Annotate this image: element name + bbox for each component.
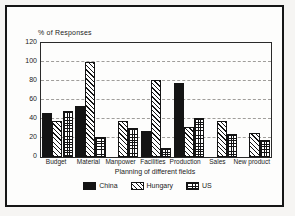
y-axis-title: % of Responses [38,29,92,36]
bar-china-budget [42,113,52,157]
y-tick-label-100: 100 [15,57,37,65]
x-tick-label-sales: Sales [201,158,233,166]
bar-hungary-sales [217,121,227,157]
bar-china-material [75,106,85,157]
legend-item-hungary: Hungary [131,181,173,190]
y-tick-label-20: 20 [15,133,37,141]
legend-item-us: US [186,181,212,190]
legend-item-china: China [83,181,117,190]
x-tick-label-new-product: New product [234,158,271,166]
gridline-100 [41,61,271,62]
x-axis-title: Planning of different fields [40,168,270,175]
x-tick-label-manpower: Manpower [105,158,137,166]
legend-label-hungary: Hungary [147,181,173,190]
x-tick-label-facilities: Facilities [137,158,169,166]
bar-china-facilities [141,131,151,157]
bar-china-production [174,83,184,157]
x-tick-label-material: Material [72,158,104,166]
legend-swatch-hungary [131,182,144,190]
bar-hungary-facilities [151,80,161,157]
plot-area [40,42,272,158]
y-tick-label-120: 120 [15,38,37,46]
y-tick-label-80: 80 [15,76,37,84]
x-axis-category-labels: BudgetMaterialManpowerFacilitiesProducti… [40,158,270,166]
bar-us-budget [63,111,73,157]
legend-swatch-us [186,182,199,190]
bar-hungary-production [184,127,194,157]
bar-hungary-budget [52,121,62,157]
scanned-chart-page: % of Responses 020406080100120 BudgetMat… [0,0,295,216]
bar-us-facilities [161,148,171,158]
bar-chart: % of Responses 020406080100120 BudgetMat… [0,0,295,216]
bar-us-new-product [260,140,270,157]
y-tick-label-40: 40 [15,114,37,122]
bar-hungary-manpower [118,121,128,157]
bar-us-material [95,137,105,157]
y-tick-label-0: 0 [15,152,37,160]
legend: ChinaHungaryUS [0,181,295,190]
x-tick-label-production: Production [169,158,201,166]
legend-label-china: China [99,181,117,190]
bar-hungary-new-product [249,133,259,157]
bar-us-manpower [128,128,138,157]
bar-us-sales [227,134,237,157]
legend-label-us: US [202,181,212,190]
bar-us-production [194,118,204,157]
x-tick-label-budget: Budget [40,158,72,166]
bar-hungary-material [85,62,95,157]
y-tick-label-60: 60 [15,95,37,103]
legend-swatch-china [83,182,96,190]
